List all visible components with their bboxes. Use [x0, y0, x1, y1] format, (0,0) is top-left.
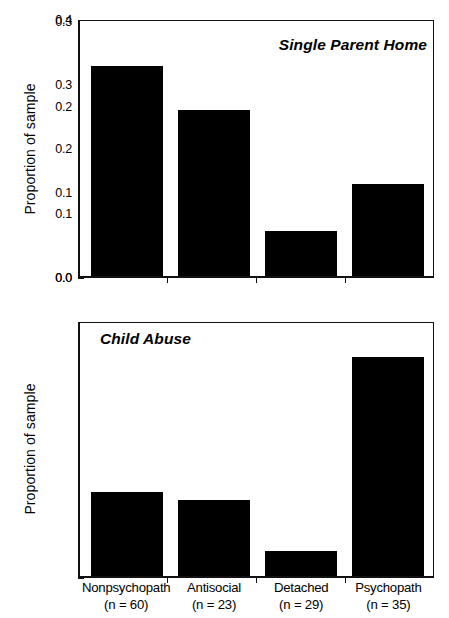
y-tick-label: 0.2: [36, 101, 72, 114]
y-axis-label-bottom: Proportion of sample: [22, 320, 38, 578]
x-label-n: (n = 35): [345, 596, 432, 613]
x-tick-mark: [167, 278, 168, 283]
bar-slot-antisocial: [171, 323, 258, 576]
bar-psychopath[interactable]: [352, 357, 424, 576]
x-label-detached: Detached (n = 29): [258, 580, 345, 613]
x-label-n: (n = 60): [82, 596, 170, 613]
plot-area-bottom: [78, 322, 434, 578]
bar-nonpsychopath[interactable]: [91, 492, 163, 576]
bar-slot-detached: [258, 323, 345, 576]
y-tick-label: 0.3: [36, 16, 72, 29]
panel-title-single-parent-home: Single Parent Home: [279, 36, 427, 54]
bar-slot-psychopath: [344, 21, 431, 276]
x-label-n: (n = 23): [170, 596, 257, 613]
x-label-name: Nonpsychopath: [82, 580, 170, 596]
y-tick-label: 0.0: [36, 272, 72, 285]
x-label-name: Detached: [258, 580, 345, 596]
x-label-nonpsychopath: Nonpsychopath (n = 60): [82, 580, 170, 613]
bar-group-bottom: [80, 323, 433, 576]
x-tick-mark: [256, 278, 257, 283]
x-label-name: Antisocial: [170, 580, 257, 596]
y-axis-ticks-bottom: 0.3 0.2 0.1 0.0: [36, 22, 72, 278]
bar-antisocial[interactable]: [178, 110, 250, 276]
x-axis-category-labels: Nonpsychopath (n = 60) Antisocial (n = 2…: [78, 580, 434, 613]
x-tick-mark: [345, 278, 346, 283]
y-tick-mark: [78, 578, 84, 579]
bar-nonpsychopath[interactable]: [91, 66, 163, 276]
bar-group-top: [80, 21, 433, 276]
bar-slot-nonpsychopath: [84, 323, 171, 576]
x-label-psychopath: Psychopath (n = 35): [345, 580, 432, 613]
bar-slot-antisocial: [171, 21, 258, 276]
plot-area-top: [78, 20, 434, 278]
y-tick-label: 0.1: [36, 187, 72, 200]
bar-psychopath[interactable]: [352, 184, 424, 276]
x-label-antisocial: Antisocial (n = 23): [170, 580, 257, 613]
panel-title-child-abuse: Child Abuse: [100, 330, 191, 348]
bar-detached[interactable]: [265, 551, 337, 576]
x-label-n: (n = 29): [258, 596, 345, 613]
bar-antisocial[interactable]: [178, 500, 250, 576]
bar-slot-nonpsychopath: [84, 21, 171, 276]
bar-slot-psychopath: [344, 323, 431, 576]
figure: Proportion of sample 0.4 0.3 0.2 0.1 0.0: [0, 0, 449, 618]
x-label-name: Psychopath: [345, 580, 432, 596]
y-tick-mark: [78, 278, 84, 279]
bar-detached[interactable]: [265, 231, 337, 276]
bar-slot-detached: [258, 21, 345, 276]
